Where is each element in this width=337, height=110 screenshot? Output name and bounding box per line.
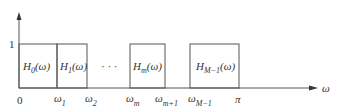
- y-tick-label: 1: [9, 38, 15, 50]
- x-axis-label: ω: [322, 82, 330, 94]
- ellipsis: · · ·: [101, 60, 118, 72]
- y-axis-arrow-icon: [17, 12, 22, 20]
- x-tick-w2: ω2: [85, 92, 97, 108]
- x-tick-wm: ωm: [126, 92, 140, 108]
- x-tick-pi: π: [235, 93, 241, 105]
- filter-label-0: H0(ω): [22, 60, 50, 75]
- x-tick-wM-1: ωM−1: [188, 92, 212, 108]
- filter-bank-diagram: 1 H0(ω) H1(ω) · · · Hm(ω) HM−1(ω) 0 ω1 ω…: [0, 0, 337, 110]
- filter-label-m: Hm(ω): [132, 60, 162, 75]
- x-axis-arrow-icon: [309, 86, 318, 91]
- filter-label-1: H1(ω): [59, 60, 87, 75]
- x-tick-w1: ω1: [54, 92, 66, 108]
- x-origin-label: 0: [17, 94, 23, 106]
- filter-label-M-1: HM−1(ω): [195, 60, 235, 75]
- x-tick-wm1: ωm+1: [155, 92, 178, 108]
